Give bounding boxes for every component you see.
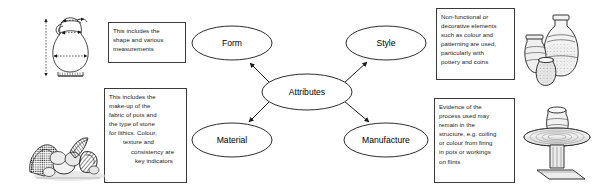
note-line: particularly with xyxy=(441,48,510,57)
note-line: such as colour and xyxy=(441,30,510,39)
connector-attributes-style xyxy=(344,62,367,83)
note-line: the type of stone xyxy=(109,119,182,128)
node-label-form: Form xyxy=(222,38,242,48)
potters-wheel-illustration xyxy=(521,100,595,182)
note-line: process used may xyxy=(439,111,510,120)
connector-attributes-material xyxy=(249,101,270,122)
note-line: patterning are used, xyxy=(441,39,510,48)
note-line: fabric of pots and xyxy=(109,110,182,119)
note-box-material: This includes the make-up of the fabric … xyxy=(104,88,187,183)
node-label-attributes: Attributes xyxy=(289,87,325,97)
note-line: pottery and coins xyxy=(441,57,510,66)
node-label-material: Material xyxy=(217,135,248,145)
note-line: key indicators xyxy=(109,156,182,165)
note-line: make-up of the xyxy=(109,101,182,110)
node-label-style: Style xyxy=(376,38,395,48)
note-line: This includes the xyxy=(109,92,182,101)
note-line: measurements xyxy=(113,44,181,53)
note-line: in pots or workings xyxy=(439,147,510,156)
note-line: decorative elements xyxy=(441,21,510,30)
note-line: for lithics. Colour, xyxy=(109,128,182,137)
note-line: consistency are xyxy=(109,147,182,156)
connector-attributes-form xyxy=(250,63,270,83)
note-line: texture and xyxy=(109,137,182,146)
note-box-form: This includes the shape and various meas… xyxy=(108,22,186,63)
jug-with-measurements-illustration xyxy=(42,8,108,82)
connector-attributes-manufacture xyxy=(344,101,369,122)
note-line: or colour from firing xyxy=(439,138,510,147)
note-line: shape and various xyxy=(113,35,181,44)
flint-stones-illustration xyxy=(26,122,110,184)
note-line: remain in the xyxy=(439,120,510,129)
note-box-manufacture: Evidence of the process used may remain … xyxy=(434,98,515,183)
note-box-style: Non-functional or decorative elements su… xyxy=(436,8,515,80)
node-label-manufacture: Manufacture xyxy=(362,135,410,145)
note-line: This includes the xyxy=(113,26,181,35)
note-line: Evidence of the xyxy=(439,102,510,111)
pottery-vessels-illustration xyxy=(519,6,595,90)
note-line: Non-functional or xyxy=(441,12,510,21)
note-line: on flints xyxy=(439,157,510,166)
note-line: structure, e.g. coiling xyxy=(439,129,510,138)
